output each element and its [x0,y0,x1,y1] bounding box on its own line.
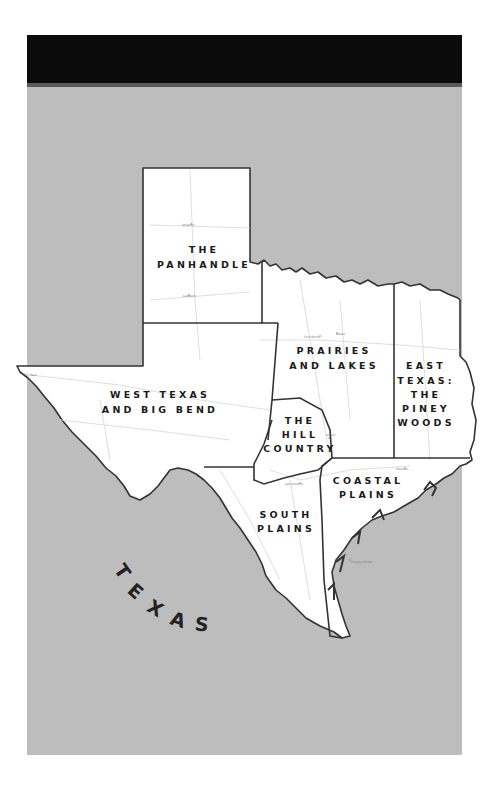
svg-text:WOODS: WOODS [397,417,454,428]
svg-text:WEST TEXAS: WEST TEXAS [110,389,210,400]
svg-text:COASTAL: COASTAL [333,475,404,486]
svg-text:X: X [144,595,168,622]
svg-text:THE: THE [411,389,442,400]
city-label-austin: Austin [326,433,336,437]
city-label-corpus-christi: Corpus Christi [351,560,372,564]
city-label-amarillo: Amarillo [182,223,195,227]
svg-text:PLAINS: PLAINS [339,489,397,500]
svg-text:COUNTRY: COUNTRY [263,443,336,454]
svg-text:SOUTH: SOUTH [259,509,312,520]
svg-text:EAST: EAST [406,360,446,371]
state-label-texas: T E X A S [110,559,210,635]
city-label-fort-worth: Fort Worth [304,335,320,339]
svg-text:A: A [168,607,189,633]
city-label-san-antonio: San Antonio [285,482,303,486]
city-label-houston: Houston [396,467,409,471]
svg-text:PINEY: PINEY [402,403,450,414]
svg-text:S: S [194,612,210,635]
svg-text:PRAIRIES: PRAIRIES [297,345,372,356]
svg-text:HILL: HILL [282,429,318,440]
city-label-el-paso: El Paso [26,373,37,377]
svg-text:AND LAKES: AND LAKES [289,360,378,371]
city-label-lubbock: Lubbock [183,294,196,298]
city-label-dallas: Dallas [336,332,346,336]
svg-text:AND BIG BEND: AND BIG BEND [102,404,218,415]
city-dot-el-paso [23,373,25,375]
city-dot-austin [328,437,330,439]
svg-text:THE: THE [285,415,316,426]
svg-text:T: T [110,559,135,582]
svg-text:TEXAS:: TEXAS: [397,375,455,386]
svg-text:PLAINS: PLAINS [257,523,315,534]
svg-text:THE: THE [189,244,220,255]
svg-text:E: E [123,578,147,603]
svg-text:PANHANDLE: PANHANDLE [157,259,251,270]
texas-region-map: Amarillo Lubbock Fort Worth Dallas El Pa… [0,0,485,804]
